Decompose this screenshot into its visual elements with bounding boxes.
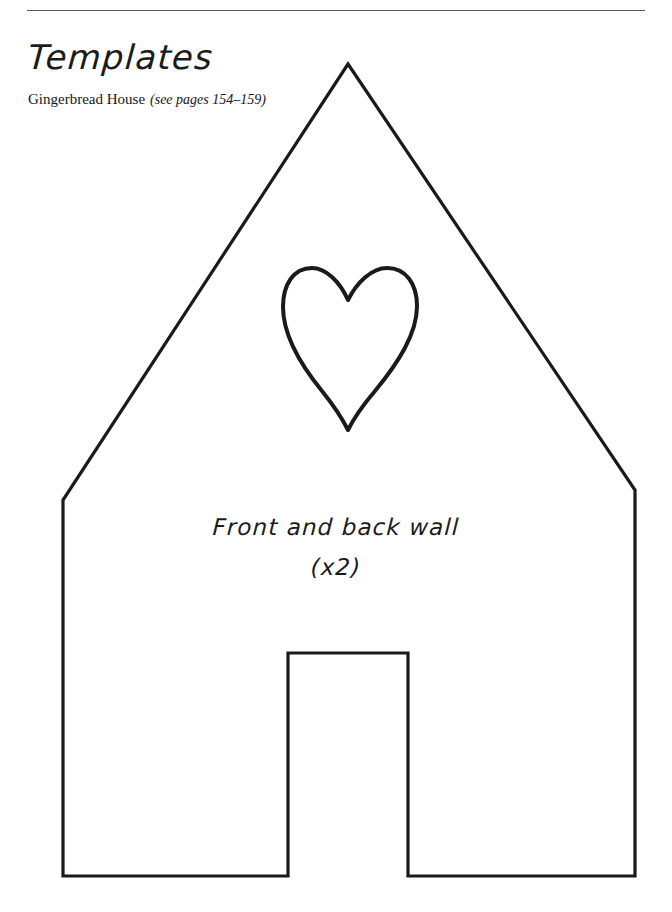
- piece-label: Front and back wall: [0, 516, 672, 539]
- heart-cutout: [283, 268, 417, 430]
- house-outline: [63, 64, 635, 876]
- template-page: Templates Gingerbread House(see pages 15…: [0, 0, 672, 912]
- piece-quantity-label: (x2): [0, 556, 672, 579]
- gingerbread-house-template-drawing: [0, 0, 672, 912]
